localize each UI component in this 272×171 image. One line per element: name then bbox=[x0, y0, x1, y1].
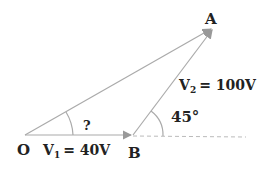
label-V2: V2= 100V bbox=[178, 77, 257, 95]
diagram-svg: A O B ? 45° V1= 40V V2= 100V bbox=[0, 0, 272, 171]
angle-arc-O bbox=[66, 112, 73, 135]
phasor-diagram: A O B ? 45° V1= 40V V2= 100V bbox=[0, 0, 272, 171]
point-label-A: A bbox=[204, 10, 217, 28]
angle-arc-B bbox=[151, 111, 163, 136]
label-V1: V1= 40V bbox=[42, 142, 111, 160]
point-label-O: O bbox=[17, 141, 30, 159]
angle-label-B: 45° bbox=[171, 108, 199, 126]
angle-label-O: ? bbox=[83, 118, 91, 133]
point-label-B: B bbox=[128, 144, 141, 162]
dashed-extension-line bbox=[133, 136, 246, 137]
